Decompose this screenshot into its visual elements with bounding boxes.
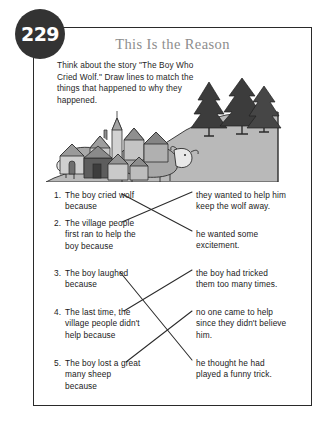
prompt-item: 5. The boy lost a great many sheep becau… [54,358,142,392]
illustration-village-hill-sheep [46,78,304,182]
prompt-text: The boy lost a great many sheep because [65,358,142,392]
prompt-text: The boy cried wolf because [65,190,142,213]
answer-item: he thought he had played a funny trick. [196,358,288,381]
answer-item: they wanted to help him keep the wolf aw… [196,190,288,213]
prompt-text: The village people first ran to help the… [65,218,142,252]
prompt-number: 5. [54,358,65,392]
worksheet-page: 229 This Is the Reason Think about the s… [0,0,323,427]
answer-item: the boy had tricked them too many times. [196,268,288,291]
page-number-badge: 229 [15,9,65,59]
answer-item: he wanted some excitement. [196,229,288,252]
prompt-text: The boy laughed because [65,268,142,291]
prompt-item: 1. The boy cried wolf because [54,190,142,213]
pine-tree-icon [191,82,227,136]
prompt-number: 3. [54,268,65,291]
prompt-number: 2. [54,218,65,252]
page-title: This Is the Reason [33,36,312,53]
answer-item: no one came to help since they didn't be… [196,307,288,341]
prompt-number: 1. [54,190,65,213]
prompt-item: 4. The last time, the village people did… [54,307,142,341]
prompt-text: The last time, the village people didn't… [65,307,142,341]
prompt-item: 3. The boy laughed because [54,268,142,291]
prompt-item: 2. The village people first ran to help … [54,218,142,252]
page-number-label: 229 [15,9,65,59]
prompt-number: 4. [54,307,65,341]
